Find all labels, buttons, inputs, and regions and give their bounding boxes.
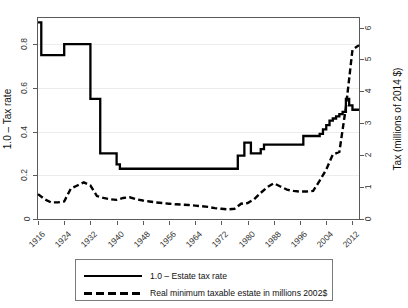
legend-item[interactable]: Real minimum taxable estate in millions … [84,286,327,300]
series-svg [38,18,359,219]
y-axis-right-tick-mark [360,187,364,188]
solid-line-key [84,271,142,281]
x-axis-tick-label: 1956 [151,229,178,256]
y-axis-right-tick-label: 6 [366,23,371,33]
y-axis-left-label: 1.0 – Tax rate [2,88,13,148]
y-axis-left-tick-label: 0.8 [18,39,30,49]
y-axis-left-tick-label: 0.2 [18,170,30,180]
x-axis-tick-mark [117,221,118,225]
x-axis-tick-mark [38,221,39,225]
x-axis-tick-label: 1940 [99,229,126,256]
y-axis-right-tick-mark [360,219,364,220]
x-axis-tick-mark [195,221,196,225]
x-axis-tick-label: 2012 [335,229,362,256]
x-axis-tick-label: 1948 [125,229,152,256]
dashed-swatch [84,292,142,295]
y-axis-left-tick-label: 0.4 [18,127,30,137]
x-axis-tick-mark [274,221,275,225]
x-axis-tick-label: 1916 [20,229,47,256]
x-axis-tick-mark [352,221,353,225]
y-axis-left-tick-label: 0.6 [18,83,30,93]
y-axis-right-tick-label: 1 [366,182,371,192]
x-axis-tick-label: 1924 [46,229,73,256]
y-axis-right-tick-mark [360,155,364,156]
x-axis-tick-label: 1988 [256,229,283,256]
y-axis-right-tick-label: 4 [366,86,371,96]
dashed-series-line [38,45,359,209]
chart-container: 1.0 – Tax rate Tax (millions of 2014 $) … [0,0,408,308]
solid-swatch [84,275,142,277]
y-axis-right-tick-mark [360,59,364,60]
legend: 1.0 – Estate tax rateReal minimum taxabl… [75,259,333,301]
solid-series-line [38,22,359,168]
y-axis-right-label-wrap: Tax (millions of 2014 $) [388,17,406,220]
x-axis-tick-label: 2004 [308,229,335,256]
y-axis-right-tick-label: 3 [366,118,371,128]
x-axis-tick-mark [90,221,91,225]
x-axis-tick-mark [221,221,222,225]
x-axis-tick-mark [248,221,249,225]
y-axis-right-tick-mark [360,91,364,92]
x-axis-tick-mark [300,221,301,225]
plot-area [37,17,360,220]
x-axis-tick-label: 1964 [177,229,204,256]
x-axis-tick-mark [326,221,327,225]
x-axis-tick-mark [143,221,144,225]
y-axis-right-tick-mark [360,28,364,29]
y-axis-right-label: Tax (millions of 2014 $) [392,67,403,170]
x-axis-tick-mark [169,221,170,225]
x-axis-tick-label: 1972 [204,229,231,256]
y-axis-right-tick-label: 2 [366,150,371,160]
y-axis-right-tick-label: 5 [366,54,371,64]
legend-item-label: 1.0 – Estate tax rate [150,271,227,281]
y-axis-right-tick-mark [360,123,364,124]
x-axis-tick-mark [64,221,65,225]
x-axis-tick-label: 1932 [73,229,100,256]
y-axis-left-label-wrap: 1.0 – Tax rate [0,17,15,220]
dashed-line-key [84,288,142,298]
x-axis-tick-label: 1996 [282,229,309,256]
legend-item[interactable]: 1.0 – Estate tax rate [84,269,227,283]
legend-item-label: Real minimum taxable estate in millions … [150,288,327,298]
x-axis-tick-label: 1980 [230,229,257,256]
